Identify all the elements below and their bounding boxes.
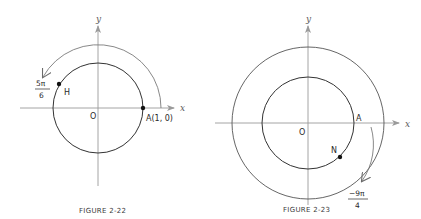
origin-label: O bbox=[90, 112, 96, 121]
x-axis-label: x bbox=[405, 119, 410, 129]
point-a-label: A(1, 0) bbox=[146, 114, 173, 123]
point-h-label: H bbox=[64, 88, 70, 97]
figure-caption: FIGURE 2-23 bbox=[283, 206, 330, 214]
figure-caption: FIGURE 2-22 bbox=[79, 207, 126, 215]
x-axis-label: x bbox=[180, 103, 185, 113]
figure-canvas: x y O A(1, 0) H 5π 6 FIGURE 2-22 x y O A… bbox=[0, 0, 421, 219]
figure-2-22: x y O A(1, 0) H 5π 6 FIGURE 2-22 bbox=[20, 14, 185, 215]
point-n-label: N bbox=[331, 146, 337, 155]
point-n bbox=[338, 155, 342, 159]
angle-arc bbox=[43, 45, 161, 108]
angle-denominator: 6 bbox=[39, 91, 44, 100]
angle-numerator: 5π bbox=[36, 79, 46, 88]
angle-arc bbox=[362, 127, 373, 181]
angle-numerator: −9π bbox=[349, 189, 365, 198]
angle-denominator: 4 bbox=[355, 201, 360, 210]
y-axis-label: y bbox=[305, 14, 312, 24]
point-a bbox=[141, 106, 145, 110]
point-h bbox=[57, 82, 61, 86]
figure-2-23: x y O A N −9π 4 FIGURE 2-23 bbox=[215, 14, 410, 214]
origin-label: O bbox=[299, 128, 305, 137]
point-a-label: A bbox=[356, 114, 362, 123]
y-axis-label: y bbox=[95, 14, 102, 24]
